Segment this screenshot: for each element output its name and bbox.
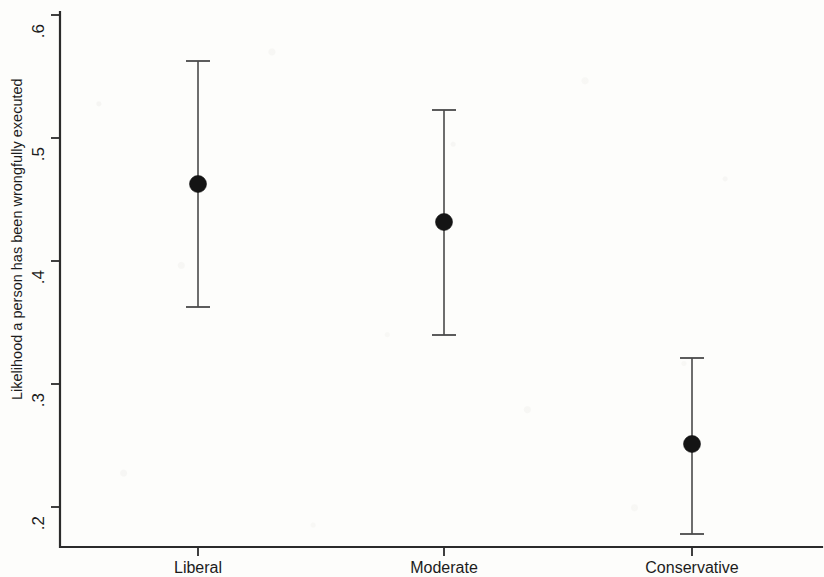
y-tick-label-0.3: .3 — [29, 393, 48, 407]
y-tick-marks — [51, 15, 60, 507]
marker-conservative — [684, 436, 701, 453]
chart-figure: Likelihood a person has been wrongfully … — [0, 0, 824, 577]
x-tick-label-conservative: Conservative — [645, 559, 738, 576]
x-tick-label-moderate: Moderate — [410, 559, 478, 576]
y-tick-label-0.5: .5 — [29, 147, 48, 161]
y-tick-label-0.6: .6 — [29, 24, 48, 38]
marker-liberal — [190, 176, 207, 193]
y-axis-title: Likelihood a person has been wrongfully … — [9, 78, 25, 400]
x-tick-label-liberal: Liberal — [174, 559, 222, 576]
data-point-liberal — [186, 61, 210, 307]
series-point-estimates — [186, 61, 704, 534]
axis-frame — [60, 12, 822, 547]
plot-area: Likelihood a person has been wrongfully … — [0, 0, 824, 577]
data-point-moderate — [432, 110, 456, 335]
marker-moderate — [436, 214, 453, 231]
x-tick-marks — [198, 547, 692, 556]
y-tick-labels: .6 .5 .4 .3 .2 — [29, 24, 48, 530]
y-tick-label-0.2: .2 — [29, 516, 48, 530]
y-axis-title-text: Likelihood a person has been wrongfully … — [9, 78, 25, 400]
y-tick-label-0.4: .4 — [29, 270, 48, 284]
data-point-conservative — [680, 358, 704, 534]
x-tick-labels: Liberal Moderate Conservative — [174, 559, 739, 576]
